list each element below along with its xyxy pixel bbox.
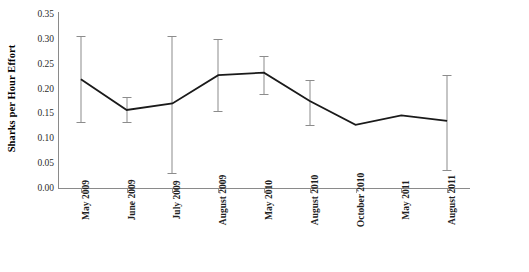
y-tick-label: 0.05 [37,158,54,168]
x-tick-label: August 2011 [447,175,457,225]
y-tick-label: 0.30 [37,34,54,44]
chart-container: Sharks per Hour Effort 0.000.050.100.150… [0,0,529,272]
x-tick-label: July 2009 [172,181,182,220]
y-tick-label: 0.10 [37,133,54,143]
x-tick-label: August 2010 [310,175,320,225]
x-tick-label: June 2009 [127,180,137,221]
y-axis-title: Sharks per Hour Effort [7,44,18,152]
series-line [58,0,470,196]
x-tick-label: August 2009 [218,175,228,225]
x-tick-label: October 2010 [356,173,366,227]
y-tick-label: 0.25 [37,59,54,69]
y-axis-tick-labels: 0.000.050.100.150.200.250.300.35 [24,0,58,196]
x-tick-label: May 2009 [81,180,91,220]
x-tick-label: May 2010 [264,180,274,220]
y-tick-label: 0.35 [37,9,54,19]
x-tick-label: May 2011 [401,180,411,219]
y-tick-label: 0.20 [37,84,54,94]
y-tick-label: 0.00 [37,183,54,193]
y-tick-label: 0.15 [37,108,54,118]
plot-area [58,0,470,196]
x-axis-tick-labels: May 2009June 2009July 2009August 2009May… [58,196,470,272]
y-axis-title-container: Sharks per Hour Effort [0,0,24,196]
